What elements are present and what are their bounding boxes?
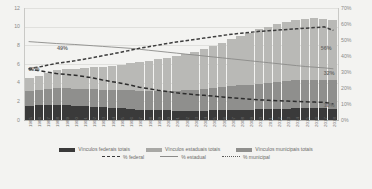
y-tick-label: 10 <box>0 24 20 29</box>
legend-item[interactable]: % federal <box>102 155 144 160</box>
y-tick-label: 8 <box>0 43 20 48</box>
bar-column <box>209 8 217 120</box>
legend-label: % federal <box>123 155 144 160</box>
bar-segment <box>71 69 79 89</box>
bar-segment <box>200 89 208 111</box>
bar-segment <box>227 39 235 86</box>
y2-tick-label: 30% <box>341 70 365 75</box>
bar-segment <box>108 66 116 90</box>
bar-segment <box>200 49 208 89</box>
bar-segment <box>255 29 263 83</box>
bar-column <box>99 8 107 120</box>
y-axis-right <box>338 8 339 120</box>
legend-swatch-icon <box>160 156 178 160</box>
bar-segment <box>236 85 244 109</box>
bar-column <box>200 8 208 120</box>
bar-column <box>190 8 198 120</box>
x-tick: 2012 <box>273 121 282 145</box>
bar-segment <box>117 65 125 91</box>
bar-segment <box>25 78 33 91</box>
x-tick: 1990 <box>70 121 79 145</box>
bar-column <box>264 8 272 120</box>
bar-segment <box>62 88 70 105</box>
bar-segment <box>282 81 290 109</box>
bar-series-group <box>24 8 338 120</box>
bar-column <box>44 8 52 120</box>
bar-segment <box>53 88 61 105</box>
x-tick: 1998 <box>144 121 153 145</box>
x-tick: 2005 <box>209 121 218 145</box>
bar-column <box>53 8 61 120</box>
y-tick-label: 12 <box>0 6 20 11</box>
bar-segment <box>80 89 88 106</box>
legend-swatch-icon <box>59 148 75 152</box>
bar-segment <box>310 80 318 109</box>
bar-column <box>108 8 116 120</box>
y2-tick-label: 40% <box>341 54 365 59</box>
legend-swatch-icon <box>146 148 162 152</box>
bar-column <box>255 8 263 120</box>
bar-segment <box>245 33 253 85</box>
data-label: 32% <box>324 71 335 76</box>
bar-segment <box>181 54 189 90</box>
bar-column <box>172 8 180 120</box>
x-tick: 1995 <box>116 121 125 145</box>
x-tick: 2004 <box>199 121 208 145</box>
legend-label: Vínculos municipais totais <box>255 147 313 152</box>
bar-column <box>35 8 43 120</box>
bar-segment <box>53 70 61 88</box>
bar-column <box>236 8 244 120</box>
bar-column <box>62 8 70 120</box>
bar-segment <box>90 89 98 106</box>
bar-column <box>126 8 134 120</box>
y-tick-label: 2 <box>0 99 20 104</box>
bar-segment <box>44 89 52 105</box>
legend-item[interactable]: Vínculos municipais totais <box>236 147 313 152</box>
bar-segment <box>62 69 70 88</box>
legend-item[interactable]: Vínculos estaduais totais <box>146 147 220 152</box>
legend-item[interactable]: % municipal <box>222 155 270 160</box>
legend-item[interactable]: % estadual <box>160 155 206 160</box>
data-label: 49% <box>57 46 68 51</box>
plot-area: 49%32%56%32%10% <box>24 8 338 120</box>
legend-row-lines: % federal% estadual% municipal <box>102 155 270 160</box>
bar-segment <box>145 61 153 91</box>
legend-row-bars: Vínculos federais totaisVínculos estadua… <box>59 147 313 152</box>
x-tick: 1986 <box>33 121 42 145</box>
x-tick: 1993 <box>98 121 107 145</box>
bar-column <box>291 8 299 120</box>
bar-column <box>218 8 226 120</box>
y-tick-label: 0 <box>0 118 20 123</box>
bar-column <box>163 8 171 120</box>
legend-item[interactable]: Vínculos federais totais <box>59 147 130 152</box>
x-tick: 1997 <box>135 121 144 145</box>
x-tick: 1987 <box>42 121 51 145</box>
bar-segment <box>80 68 88 89</box>
bar-segment <box>163 91 171 111</box>
bar-segment <box>282 22 290 81</box>
x-tick: 2008 <box>236 121 245 145</box>
chart-legend: Vínculos federais totaisVínculos estadua… <box>0 147 372 160</box>
x-tick: 2011 <box>264 121 273 145</box>
bar-segment <box>154 91 162 110</box>
x-tick: 1991 <box>79 121 88 145</box>
y2-tick-label: 10% <box>341 102 365 107</box>
bar-segment <box>264 83 272 110</box>
bar-segment <box>117 90 125 108</box>
data-label: 56% <box>321 46 332 51</box>
x-tick: 2010 <box>255 121 264 145</box>
y2-tick-label: 20% <box>341 86 365 91</box>
bar-column <box>154 8 162 120</box>
bar-column <box>282 8 290 120</box>
bar-segment <box>163 58 171 91</box>
x-tick: 2017 <box>320 121 329 145</box>
bar-column <box>181 8 189 120</box>
y-tick-label: 6 <box>0 62 20 67</box>
bar-segment <box>255 84 263 110</box>
x-tick: 2002 <box>181 121 190 145</box>
y2-tick-label: 50% <box>341 38 365 43</box>
x-tick: 2000 <box>163 121 172 145</box>
bar-column <box>227 8 235 120</box>
y2-tick-label: 60% <box>341 22 365 27</box>
bar-segment <box>172 91 180 111</box>
